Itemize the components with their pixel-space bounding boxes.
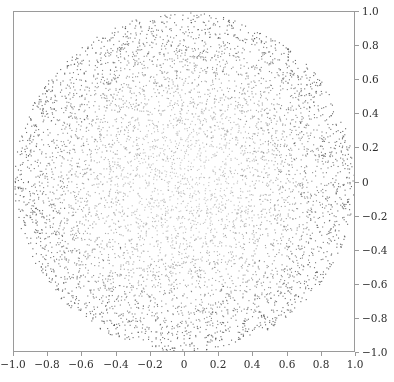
y-axis-tick	[355, 147, 359, 148]
y-axis-tick	[355, 182, 359, 183]
y-axis-tick	[355, 113, 359, 114]
y-axis-tick-label: 0.2	[362, 142, 379, 153]
y-axis-tick	[355, 250, 359, 251]
y-axis-tick	[355, 284, 359, 285]
x-axis-tick	[252, 352, 253, 356]
x-axis-tick	[218, 352, 219, 356]
y-axis-tick-label: 0.6	[362, 74, 379, 85]
scatter-plot-figure: −1.0−0.8−0.6−0.4−0.200.20.40.60.81.0 1.0…	[0, 0, 394, 382]
x-axis-tick	[116, 352, 117, 356]
y-axis-tick-label: −0.8	[362, 313, 388, 324]
x-axis-tick	[150, 352, 151, 356]
x-axis-tick-label: 0.4	[244, 359, 261, 370]
x-axis-tick-label: 0.8	[313, 359, 330, 370]
x-axis-tick-label: −0.6	[68, 359, 94, 370]
y-axis-tick-label: 1.0	[362, 6, 379, 17]
x-axis-tick-label: 0	[181, 359, 188, 370]
x-axis-tick	[47, 352, 48, 356]
y-axis-tick-label: −0.4	[362, 245, 388, 256]
plot-frame	[13, 11, 355, 352]
x-axis-tick-label: 0.6	[279, 359, 296, 370]
x-axis-tick-label: 0.2	[210, 359, 227, 370]
x-axis-tick-label: 1.0	[347, 359, 364, 370]
y-axis-tick-label: 0.4	[362, 108, 379, 119]
y-axis-tick	[355, 79, 359, 80]
y-axis-tick	[355, 318, 359, 319]
y-axis-tick	[355, 11, 359, 12]
x-axis-tick-label: −0.4	[103, 359, 129, 370]
y-axis-tick-label: 0.8	[362, 40, 379, 51]
x-axis-tick	[184, 352, 185, 356]
y-axis-tick	[355, 352, 359, 353]
x-axis-tick	[81, 352, 82, 356]
y-axis-tick-label: −0.6	[362, 279, 388, 290]
y-axis-tick-label: −0.2	[362, 211, 388, 222]
x-axis-tick-label: −1.0	[0, 359, 26, 370]
y-axis-tick	[355, 45, 359, 46]
x-axis-tick	[13, 352, 14, 356]
y-axis-tick-label: −1.0	[362, 347, 388, 358]
x-axis-tick-label: −0.8	[34, 359, 60, 370]
y-axis-tick	[355, 216, 359, 217]
y-axis-tick-label: 0	[362, 177, 369, 188]
x-axis-tick	[287, 352, 288, 356]
x-axis-tick-label: −0.2	[137, 359, 163, 370]
x-axis-tick	[321, 352, 322, 356]
